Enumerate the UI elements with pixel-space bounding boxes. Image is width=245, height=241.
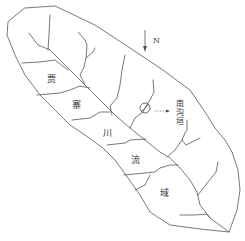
tributary <box>110 55 125 115</box>
tributary <box>180 214 210 218</box>
marker-label: 南沟垣 <box>175 99 184 126</box>
main-channel <box>50 50 229 232</box>
tributary <box>86 48 95 58</box>
tributary <box>182 120 200 145</box>
watershed-boundary <box>7 6 240 232</box>
tributary <box>29 33 50 50</box>
tributary <box>198 162 218 195</box>
watershed-map <box>0 0 245 241</box>
north-arrow <box>143 30 147 52</box>
region-label-zhai: 寨 <box>72 101 81 110</box>
location-marker <box>140 103 170 113</box>
region-label-yu: 域 <box>160 189 169 198</box>
tributary <box>107 139 146 145</box>
tributary <box>48 15 50 50</box>
north-label: N <box>153 36 160 45</box>
tributary <box>135 175 150 190</box>
tributary <box>37 86 90 95</box>
region-label-liu: 流 <box>131 156 140 165</box>
tributary <box>167 140 182 157</box>
tributary <box>72 112 110 120</box>
tributary <box>124 165 178 175</box>
tributary <box>78 32 87 85</box>
region-label-chuan: 川 <box>103 129 112 138</box>
region-label-jia: 贾 <box>47 75 56 84</box>
